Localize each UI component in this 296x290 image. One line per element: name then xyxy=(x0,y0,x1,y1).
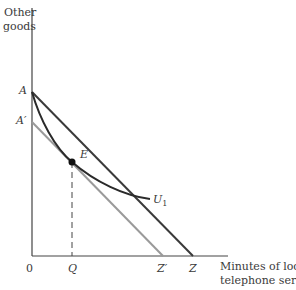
point-z-label: Z xyxy=(189,262,197,275)
y-axis-label-line1: Other xyxy=(4,6,36,20)
y-axis-label-line2: goods xyxy=(3,20,36,34)
point-aprime-label: A′ xyxy=(16,114,26,127)
u1-label-sub: 1 xyxy=(162,199,167,208)
point-e-label: E xyxy=(80,148,88,161)
budget-line-a-z xyxy=(32,92,193,256)
diagram-canvas xyxy=(0,0,296,290)
u1-label: U1 xyxy=(153,193,167,208)
point-q-label: Q xyxy=(68,262,77,275)
x-axis-label-line2: telephone service xyxy=(220,274,296,288)
u1-label-main: U xyxy=(153,193,162,206)
budget-line-aprime-zprime xyxy=(32,122,163,256)
point-zprime-label: Z′ xyxy=(157,262,167,275)
point-a-label: A xyxy=(19,84,27,97)
x-axis-label-line1: Minutes of local xyxy=(220,260,296,274)
point-e-dot xyxy=(69,159,76,166)
origin-label: 0 xyxy=(26,262,33,275)
